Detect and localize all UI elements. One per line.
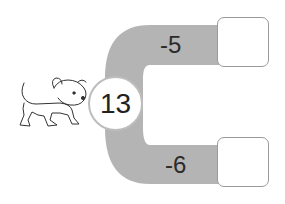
dog-icon — [20, 78, 86, 126]
start-number-circle: 13 — [88, 76, 143, 131]
operation-label-2: -6 — [165, 153, 186, 177]
answer-box-1[interactable] — [217, 17, 269, 67]
answer-box-2[interactable] — [217, 137, 269, 187]
operation-label-1: -5 — [160, 33, 181, 57]
start-number: 13 — [100, 88, 131, 120]
